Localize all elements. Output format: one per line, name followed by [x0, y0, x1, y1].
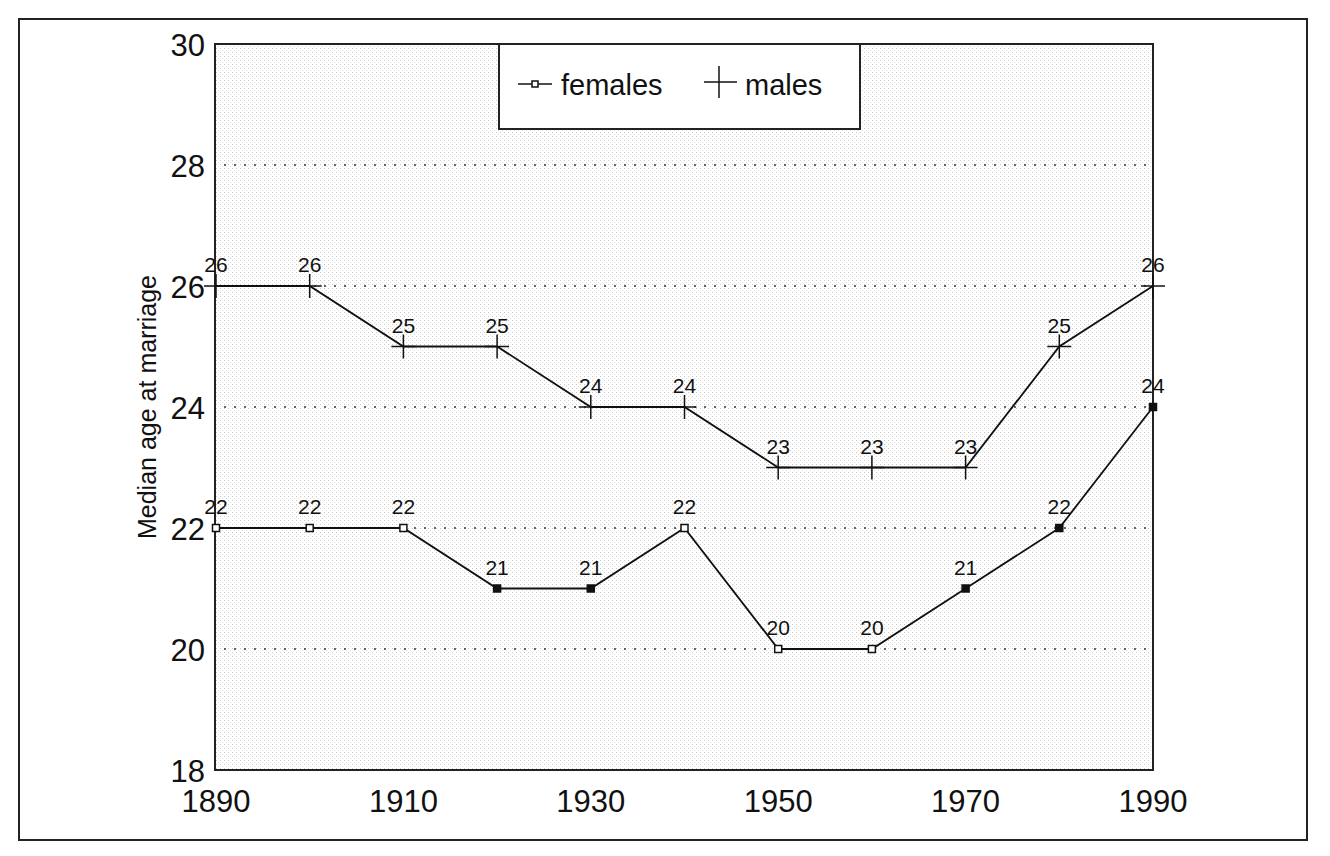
data-label: 25	[1048, 314, 1071, 337]
x-tick-label: 1950	[744, 784, 813, 819]
x-tick-label: 1890	[182, 784, 251, 819]
data-label: 20	[860, 616, 883, 639]
data-label: 20	[767, 616, 790, 639]
data-label: 24	[673, 374, 697, 397]
data-label: 21	[954, 556, 977, 579]
data-label: 22	[673, 495, 696, 518]
data-label: 21	[579, 556, 602, 579]
data-label: 22	[204, 495, 227, 518]
x-tick-label: 1910	[369, 784, 438, 819]
y-tick-label: 20	[171, 633, 205, 668]
data-label: 21	[485, 556, 508, 579]
y-tick-label: 30	[171, 28, 205, 63]
square-marker-icon	[213, 525, 220, 532]
y-axis-ticks: 18202224262830	[171, 28, 205, 789]
x-tick-label: 1970	[931, 784, 1000, 819]
square-marker-icon	[681, 525, 688, 532]
legend: females males	[499, 44, 860, 129]
x-tick-label: 1930	[556, 784, 625, 819]
data-label: 22	[392, 495, 415, 518]
square-marker-icon	[400, 525, 407, 532]
y-tick-label: 22	[171, 512, 205, 547]
data-label: 22	[298, 495, 321, 518]
y-tick-label: 26	[171, 270, 205, 305]
square-marker-icon	[587, 585, 594, 592]
square-marker-icon	[868, 646, 875, 653]
data-label: 24	[579, 374, 603, 397]
data-label: 26	[1141, 253, 1164, 276]
legend-males-label: males	[745, 69, 822, 101]
data-label: 23	[860, 435, 883, 458]
data-label: 23	[954, 435, 977, 458]
square-marker-icon	[775, 646, 782, 653]
data-label: 26	[298, 253, 321, 276]
legend-females-label: females	[561, 69, 663, 101]
data-label: 23	[767, 435, 790, 458]
data-label: 26	[204, 253, 227, 276]
square-marker-icon	[306, 525, 313, 532]
x-tick-label: 1990	[1119, 784, 1188, 819]
square-marker-icon	[1150, 404, 1157, 411]
square-marker-icon	[494, 585, 501, 592]
data-label: 22	[1048, 495, 1071, 518]
square-marker-icon	[962, 585, 969, 592]
data-label: 25	[392, 314, 415, 337]
data-label: 24	[1141, 374, 1165, 397]
square-marker-icon	[1056, 525, 1063, 532]
y-axis-label: Median age at marriage	[133, 275, 161, 539]
x-axis-ticks: 189019101930195019701990	[182, 784, 1188, 819]
y-tick-label: 24	[171, 391, 205, 426]
y-tick-label: 28	[171, 149, 205, 184]
data-label: 25	[485, 314, 508, 337]
line-chart: 18202224262830 189019101930195019701990 …	[0, 0, 1330, 856]
